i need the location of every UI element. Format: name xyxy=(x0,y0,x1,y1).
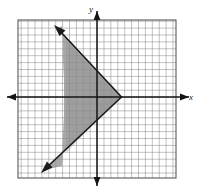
x-axis-label: x xyxy=(188,92,193,102)
y-axis-label: y xyxy=(88,4,93,14)
coordinate-plane-figure: y x xyxy=(0,0,197,193)
graph-canvas: y x xyxy=(0,0,197,193)
